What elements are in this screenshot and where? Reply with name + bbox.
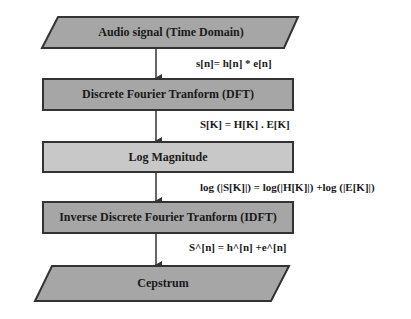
log-node-label: Log Magnitude (43, 150, 293, 165)
input-node-label: Audio signal (Time Domain) (58, 25, 284, 40)
dft-node-label: Discrete Fourier Tranform (DFT) (43, 87, 293, 102)
edge-label-product: S[K] = H[K] . E[K] (200, 118, 290, 130)
edge-label-log-sum: log (|S[K]|) = log(|H[K]|) +log (|E[K]|) (200, 181, 375, 193)
idft-node-label: Inverse Discrete Fourier Tranform (IDFT) (20, 210, 316, 225)
edge-label-convolution: s[n]= h[n] * e[n] (196, 57, 272, 69)
output-node-label: Cepstrum (45, 276, 281, 291)
edge-label-cepstrum-sum: S^[n] = h^[n] +e^[n] (189, 241, 286, 253)
